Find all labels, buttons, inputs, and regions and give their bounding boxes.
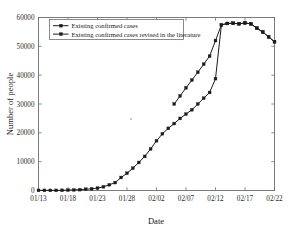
plot-axes (39, 18, 275, 191)
data-point-marker (67, 189, 70, 192)
x-tick-label: 02/22 (266, 195, 283, 203)
y-tick-label: 50000 (17, 43, 35, 51)
data-point-marker (190, 108, 193, 111)
x-axis-ticks: 01/1301/1801/2301/2802/0202/0702/1202/17… (30, 18, 283, 203)
y-tick-label: 40000 (17, 72, 35, 80)
y-tick-label: 60000 (17, 14, 35, 22)
data-point-marker (37, 189, 40, 192)
data-point-marker (96, 187, 99, 190)
data-point-marker (232, 22, 235, 25)
data-point-marker (249, 22, 252, 25)
data-point-marker (173, 122, 176, 125)
data-point-marker (78, 188, 81, 191)
data-point-marker (261, 31, 264, 34)
x-tick-label: 02/02 (148, 195, 165, 203)
chart-legend: Existing confirmed casesExisting confirm… (50, 20, 201, 40)
data-point-marker (102, 185, 105, 188)
legend-label: Existing confirmed cases revised in the … (72, 31, 201, 38)
x-axis-title: Date (148, 216, 164, 226)
data-point-marker (179, 94, 182, 97)
data-point-marker (173, 103, 176, 106)
data-point-marker (84, 188, 87, 191)
data-point-marker (137, 161, 140, 164)
data-point-marker (131, 167, 134, 170)
data-point-marker (143, 155, 146, 158)
data-point-marker (126, 172, 129, 175)
y-tick-label: 20000 (17, 129, 35, 137)
line-chart: 0100002000030000400005000060000 01/1301/… (0, 0, 292, 231)
x-tick-label: 01/13 (30, 195, 47, 203)
data-point-marker (167, 127, 170, 130)
legend-entry-2[interactable]: Existing confirmed cases revised in the … (53, 31, 200, 38)
data-point-marker (72, 188, 75, 191)
data-point-marker (244, 22, 247, 25)
data-point-marker (273, 40, 276, 43)
data-point-marker (267, 35, 270, 38)
data-point-marker (208, 55, 211, 58)
series-1 (37, 22, 276, 192)
data-point-marker (185, 113, 188, 116)
y-axis-title: Number of people (5, 73, 15, 136)
data-point-marker (185, 86, 188, 89)
data-point-marker (208, 91, 211, 94)
data-point-marker (190, 79, 193, 82)
data-point-marker (214, 39, 217, 42)
data-point-marker (43, 189, 46, 192)
y-tick-label: 30000 (17, 101, 35, 109)
data-point-marker (49, 189, 52, 192)
legend-marker (60, 24, 63, 27)
data-point-marker (196, 103, 199, 106)
data-point-marker (55, 189, 58, 192)
x-tick-label: 02/17 (237, 195, 254, 203)
x-tick-label: 01/23 (89, 195, 106, 203)
x-tick-label: 02/07 (178, 195, 195, 203)
data-point-marker (196, 71, 199, 74)
data-point-marker (220, 24, 223, 27)
data-point-marker (120, 176, 123, 179)
data-point-marker (61, 189, 64, 192)
data-point-marker (179, 117, 182, 120)
data-series (37, 22, 276, 192)
data-point-marker (202, 63, 205, 66)
scan-artifact (130, 118, 132, 120)
data-point-marker (226, 22, 229, 25)
data-point-marker (155, 139, 158, 142)
y-tick-label: 10000 (17, 158, 35, 166)
data-point-marker (214, 77, 217, 80)
data-point-marker (238, 22, 241, 25)
plot-frame (39, 18, 275, 191)
y-axis-ticks: 0100002000030000400005000060000 (17, 14, 275, 195)
series-path (39, 23, 275, 190)
data-point-marker (149, 148, 152, 151)
chart-figure: 0100002000030000400005000060000 01/1301/… (0, 0, 292, 231)
data-point-marker (90, 187, 93, 190)
legend-marker (60, 33, 63, 36)
data-point-marker (108, 183, 111, 186)
legend-label: Existing confirmed cases (72, 22, 139, 29)
x-tick-label: 01/18 (60, 195, 77, 203)
data-point-marker (114, 181, 117, 184)
data-point-marker (161, 132, 164, 135)
data-point-marker (202, 97, 205, 100)
data-point-marker (255, 27, 258, 30)
x-tick-label: 02/12 (207, 195, 224, 203)
x-tick-label: 01/28 (119, 195, 136, 203)
